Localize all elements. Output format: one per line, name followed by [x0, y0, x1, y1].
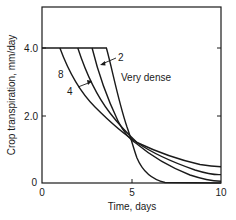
- ytick-4: 4.0: [24, 43, 38, 54]
- x-axis-label: Time, days: [108, 201, 157, 212]
- xtick-0: 0: [39, 187, 45, 198]
- xtick-10: 10: [215, 187, 227, 198]
- y-axis-label: Crop transpiration, mm/day: [6, 35, 17, 156]
- label-4: 4: [67, 86, 73, 97]
- ytick-2: 2.0: [24, 111, 38, 122]
- ytick-0: 0: [31, 177, 37, 188]
- chart: 2 Very dense 8 4 4.0 2.0 0 0 5 10 Time, …: [0, 0, 236, 220]
- curves: [42, 48, 221, 183]
- label-very-dense: Very dense: [121, 72, 171, 83]
- xtick-5: 5: [129, 187, 135, 198]
- label-2: 2: [118, 52, 124, 63]
- label-8: 8: [58, 69, 64, 80]
